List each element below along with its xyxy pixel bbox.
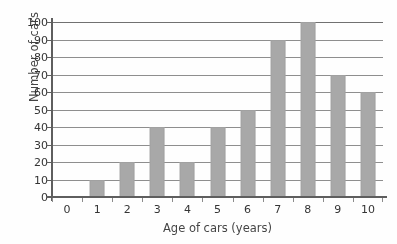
- bar: [360, 92, 375, 197]
- x-tick: [202, 198, 203, 202]
- x-tick: [233, 198, 234, 202]
- bar-slot: [142, 22, 172, 197]
- bar-slot: [353, 22, 383, 197]
- bar-chart: Number of cars 0102030405060708090100 01…: [0, 0, 397, 244]
- x-tick: [293, 198, 294, 202]
- x-tick: [82, 198, 83, 202]
- x-tick-label: 10: [353, 203, 383, 217]
- bar-slot: [172, 22, 202, 197]
- x-tick-label: 3: [142, 203, 172, 217]
- x-tick: [112, 198, 113, 202]
- x-tick-label: 6: [233, 203, 263, 217]
- x-tick: [382, 198, 383, 202]
- bar: [330, 75, 345, 198]
- x-axis-title: Age of cars (years): [52, 221, 383, 235]
- bar-slot: [82, 22, 112, 197]
- bar-slot: [202, 22, 232, 197]
- bar: [300, 22, 315, 197]
- x-tick-label: 8: [293, 203, 323, 217]
- bar-slot: [263, 22, 293, 197]
- bar: [120, 162, 135, 197]
- x-tick-label: 2: [112, 203, 142, 217]
- x-tick: [52, 198, 53, 202]
- y-axis-line: [51, 18, 53, 201]
- bar: [150, 127, 165, 197]
- x-tick-label: 5: [202, 203, 232, 217]
- bar: [210, 127, 225, 197]
- x-tick-label: 7: [263, 203, 293, 217]
- x-tick-label: 4: [172, 203, 202, 217]
- x-tick: [353, 198, 354, 202]
- x-tick-label: 0: [52, 203, 82, 217]
- bar-slot: [112, 22, 142, 197]
- x-tick: [263, 198, 264, 202]
- x-tick-label: 1: [82, 203, 112, 217]
- x-axis-tick-labels: 012345678910: [52, 203, 383, 219]
- bar: [240, 110, 255, 198]
- x-tick-label: 9: [323, 203, 353, 217]
- x-tick: [142, 198, 143, 202]
- x-tick: [172, 198, 173, 202]
- bar-slot: [52, 22, 82, 197]
- bar-slot: [293, 22, 323, 197]
- y-axis-tick-labels: 0102030405060708090100: [24, 16, 48, 198]
- bar: [270, 40, 285, 198]
- y-tick-label: 100: [27, 17, 48, 28]
- bar-slot: [323, 22, 353, 197]
- bar: [180, 162, 195, 197]
- bar: [90, 180, 105, 198]
- bar-slot: [233, 22, 263, 197]
- bar-series: [52, 22, 383, 197]
- x-tick: [323, 198, 324, 202]
